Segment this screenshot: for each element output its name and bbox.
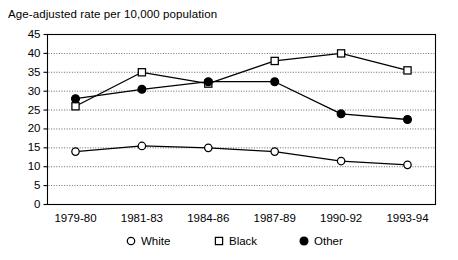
legend-item-other[interactable]: Other bbox=[300, 235, 343, 247]
legend-marker-other bbox=[300, 237, 308, 245]
x-axis-tick-label: 1981-83 bbox=[121, 212, 163, 224]
y-axis-tick-label: 35 bbox=[28, 66, 41, 78]
x-axis-tick-labels: 1979-801981-831984-861987-891990-921993-… bbox=[54, 212, 429, 224]
y-tick-marks bbox=[44, 35, 48, 205]
y-axis-tick-labels: 051015202530354045 bbox=[28, 28, 41, 210]
y-axis-tick-label: 10 bbox=[28, 160, 41, 172]
legend-label-other: Other bbox=[314, 235, 343, 247]
data-point-black-1979-80 bbox=[72, 103, 79, 110]
y-axis-tick-label: 20 bbox=[28, 122, 41, 134]
data-point-other-1993-94 bbox=[404, 116, 412, 124]
data-point-white-1987-89 bbox=[271, 148, 278, 155]
data-point-other-1979-80 bbox=[72, 95, 80, 103]
data-point-other-1984-86 bbox=[204, 78, 212, 86]
data-point-white-1979-80 bbox=[72, 148, 79, 155]
data-series-group bbox=[72, 50, 412, 169]
data-point-black-1993-94 bbox=[404, 67, 411, 74]
data-point-white-1990-92 bbox=[337, 157, 344, 164]
y-axis-tick-label: 25 bbox=[28, 104, 41, 116]
y-axis-tick-label: 5 bbox=[34, 179, 40, 191]
y-axis-tick-label: 45 bbox=[28, 28, 41, 40]
series-line-white bbox=[76, 146, 408, 165]
data-point-other-1987-89 bbox=[271, 78, 279, 86]
legend-marker-black bbox=[215, 237, 222, 244]
y-axis-tick-label: 40 bbox=[28, 47, 41, 59]
series-black bbox=[72, 50, 411, 110]
x-axis-tick-label: 1984-86 bbox=[187, 212, 229, 224]
series-line-black bbox=[76, 53, 408, 106]
plot-area-frame bbox=[48, 35, 436, 205]
gridlines-group bbox=[49, 53, 435, 185]
series-line-other bbox=[76, 82, 408, 120]
legend-item-black[interactable]: Black bbox=[215, 235, 257, 247]
y-axis-tick-label: 30 bbox=[28, 85, 41, 97]
series-white bbox=[72, 142, 411, 168]
data-point-white-1984-86 bbox=[205, 144, 212, 151]
line-chart-plot: 051015202530354045 1979-801981-831984-86… bbox=[0, 0, 458, 260]
data-point-other-1981-83 bbox=[138, 85, 146, 93]
y-axis-tick-label: 0 bbox=[34, 198, 40, 210]
legend-marker-white bbox=[127, 237, 134, 244]
series-other bbox=[72, 78, 412, 124]
legend-label-white: White bbox=[141, 235, 170, 247]
x-axis-tick-label: 1979-80 bbox=[54, 212, 96, 224]
data-point-white-1981-83 bbox=[138, 142, 145, 149]
data-point-black-1981-83 bbox=[138, 69, 145, 76]
x-axis-tick-label: 1990-92 bbox=[320, 212, 362, 224]
y-axis-tick-label: 15 bbox=[28, 141, 41, 153]
legend-label-black: Black bbox=[229, 235, 257, 247]
chart-figure: Age-adjusted rate per 10,000 population … bbox=[0, 0, 458, 260]
x-axis-tick-label: 1987-89 bbox=[254, 212, 296, 224]
chart-legend: WhiteBlackOther bbox=[127, 235, 343, 247]
data-point-white-1993-94 bbox=[404, 161, 411, 168]
legend-item-white[interactable]: White bbox=[127, 235, 170, 247]
data-point-black-1990-92 bbox=[338, 50, 345, 57]
data-point-other-1990-92 bbox=[337, 110, 345, 118]
data-point-black-1987-89 bbox=[271, 57, 278, 64]
x-axis-tick-label: 1993-94 bbox=[386, 212, 429, 224]
